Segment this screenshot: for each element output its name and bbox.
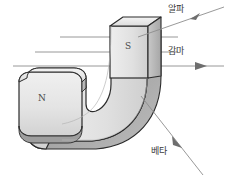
gamma-arrowhead — [195, 62, 207, 70]
pole-label-north: N — [38, 93, 46, 103]
beta-path-line — [141, 96, 203, 175]
label-alpha: 알파 — [168, 5, 184, 14]
diagram-canvas: N S 알파 감마 베타 — [0, 0, 230, 179]
magnet-n-pole-panel — [19, 72, 82, 136]
magnet-s-arm-right-face — [148, 17, 161, 78]
alpha-arrowhead — [190, 13, 200, 20]
label-gamma: 감마 — [168, 47, 184, 56]
diagram-svg — [0, 0, 230, 179]
pole-label-south: S — [125, 41, 131, 51]
magnet-s-arm-face — [110, 26, 148, 78]
label-beta: 베타 — [151, 147, 167, 156]
